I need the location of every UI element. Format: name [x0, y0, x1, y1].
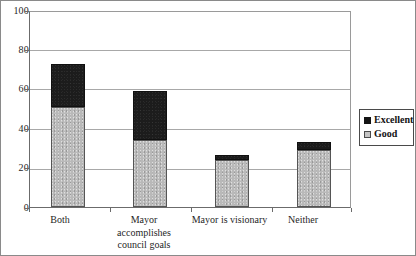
- y-axis: 100 80 60 40 20 0: [1, 1, 29, 217]
- x-label-mayor-is-visionary-line-1: Mayor is visionary: [181, 214, 278, 227]
- bar-group-mayor-accomplishes-council-goals: [133, 91, 167, 207]
- x-label-mayor-accomplishes-council-goals-line-1: Mayor: [106, 214, 182, 227]
- gray-square-swatch-icon: [364, 131, 371, 138]
- x-tick-mark-0: [29, 208, 30, 212]
- black-square-swatch-icon: [364, 117, 371, 124]
- x-label-mayor-is-visionary: Mayor is visionary: [181, 214, 278, 227]
- plot-area: [29, 11, 351, 208]
- x-tick-mark-3: [272, 208, 273, 212]
- bar-segment-both-excellent: [51, 64, 85, 107]
- legend-item-excellent: Excellent: [364, 113, 410, 127]
- bar-segment-neither-good: [297, 150, 331, 207]
- bar-segment-neither-excellent: [297, 142, 331, 150]
- legend: Excellent Good: [359, 109, 414, 146]
- x-label-both: Both: [30, 214, 90, 227]
- legend-label-excellent: Excellent: [374, 115, 413, 125]
- x-label-neither-line-1: Neither: [273, 214, 333, 227]
- bar-group-both: [51, 64, 85, 207]
- bar-group-mayor-is-visionary: [215, 155, 249, 207]
- x-label-mayor-accomplishes-council-goals-line-3: council goals: [106, 239, 182, 252]
- x-tick-mark-4: [351, 208, 352, 212]
- legend-label-good: Good: [374, 129, 397, 139]
- x-tick-mark-2: [191, 208, 192, 212]
- bar-group-neither: [297, 142, 331, 207]
- chart-figure: 100 80 60 40 20 0: [0, 0, 416, 256]
- x-label-mayor-accomplishes-council-goals-line-2: accomplishes: [106, 227, 182, 240]
- bar-segment-mayor-accomplishes-council-goals-excellent: [133, 91, 167, 140]
- x-tick-mark-1: [110, 208, 111, 212]
- gridline-80: [30, 50, 350, 51]
- x-label-mayor-accomplishes-council-goals: Mayor accomplishes council goals: [106, 214, 182, 252]
- x-label-both-line-1: Both: [30, 214, 90, 227]
- bar-segment-mayor-accomplishes-council-goals-good: [133, 140, 167, 207]
- x-label-neither: Neither: [273, 214, 333, 227]
- bar-segment-mayor-is-visionary-good: [215, 160, 249, 207]
- legend-item-good: Good: [364, 127, 410, 141]
- bar-segment-both-good: [51, 107, 85, 207]
